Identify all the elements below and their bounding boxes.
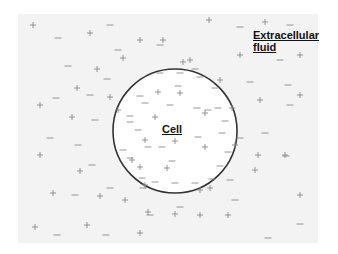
extracellular-fluid-label-line1: Extracellular (253, 29, 319, 41)
extracellular-fluid-label: Extracellular fluid (253, 29, 319, 53)
cell-label: Cell (162, 123, 182, 135)
extracellular-fluid-label-line2: fluid (253, 41, 319, 53)
